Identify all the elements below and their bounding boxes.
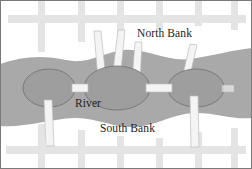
river-bridges-map: North Bank River South Bank xyxy=(0,0,252,169)
road-horizontal-north xyxy=(8,15,246,23)
label-river: River xyxy=(75,97,101,109)
label-north-bank: North Bank xyxy=(137,27,192,39)
bridge-center-to-east xyxy=(146,84,172,92)
bridge-east-edge xyxy=(222,85,234,92)
road-horizontal-south xyxy=(6,146,246,154)
bridge-west-to-center xyxy=(72,84,88,92)
bridge-east-to-south xyxy=(190,96,199,147)
label-south-bank: South Bank xyxy=(100,122,155,134)
bridge-west-to-south xyxy=(44,100,54,146)
map-canvas xyxy=(0,0,252,169)
road-vertical-1 xyxy=(38,0,45,52)
